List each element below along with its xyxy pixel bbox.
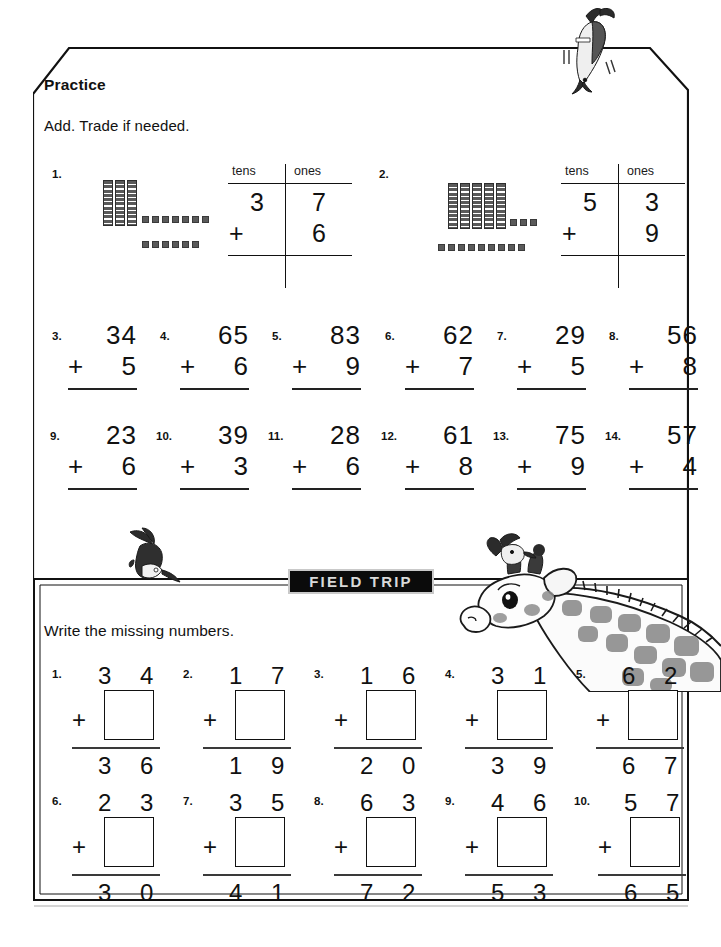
- field-trip-banner: FIELD TRIP: [288, 569, 434, 594]
- problem-number: 4.: [160, 330, 170, 342]
- problem-number: 13.: [493, 430, 509, 442]
- addend-top: 28: [330, 422, 361, 448]
- ones-column-header: ones: [627, 164, 654, 178]
- problem-number: 3.: [52, 330, 62, 342]
- answer-rule: [596, 747, 684, 749]
- addend-top: 61: [443, 422, 474, 448]
- answer-box[interactable]: [497, 817, 547, 867]
- missing-number-problem: 1 6 + 2 0: [334, 662, 429, 780]
- missing-number-problem: 3 1 + 3 9: [465, 662, 560, 780]
- answer-rule: [72, 874, 160, 876]
- addend-ones-digit: 9: [645, 219, 659, 248]
- plus-operator: +: [465, 833, 479, 861]
- problem-number: 1.: [52, 668, 62, 680]
- addend-top: 6 2: [622, 662, 688, 690]
- answer-rule: [334, 874, 422, 876]
- sum-value: 2 0: [360, 752, 426, 780]
- table-bottom-rule: [228, 255, 352, 256]
- answer-box[interactable]: [235, 690, 285, 740]
- ones-column-header: ones: [294, 164, 321, 178]
- problem-number: 3.: [314, 668, 324, 680]
- practice-instruction: Add. Trade if needed.: [44, 117, 190, 134]
- addend-top: 83: [330, 322, 361, 348]
- answer-box[interactable]: [366, 690, 416, 740]
- problem-number: 7.: [183, 795, 193, 807]
- addend-bottom: 9: [346, 353, 361, 379]
- addend-top: 2 3: [98, 789, 164, 817]
- missing-number-problem: 3 4 + 3 6: [72, 662, 167, 780]
- answer-rule: [203, 747, 291, 749]
- addend-top: 6 3: [360, 789, 426, 817]
- addend-bottom: 6: [122, 453, 137, 479]
- tens-digit: 3: [250, 188, 264, 217]
- sum-value: 5 3: [491, 879, 557, 907]
- problem-number: 9.: [50, 430, 60, 442]
- addend-top: 23: [106, 422, 137, 448]
- addend-top: 62: [443, 322, 474, 348]
- answer-rule: [203, 874, 291, 876]
- plus-operator: +: [405, 353, 420, 379]
- worksheet-page: Practice Add. Trade if needed. 1. tens o…: [0, 0, 721, 947]
- addend-bottom: 3: [234, 453, 249, 479]
- addend-bottom: 4: [683, 453, 698, 479]
- answer-rule: [292, 488, 361, 490]
- answer-box[interactable]: [497, 690, 547, 740]
- sum-value: 3 0: [98, 879, 164, 907]
- missing-number-problem: 5 7 + 6 5: [598, 789, 693, 907]
- addend-top: 39: [218, 422, 249, 448]
- place-value-table-2: tens ones 5 3 + 9: [561, 164, 685, 288]
- answer-box[interactable]: [630, 817, 680, 867]
- plus-operator: +: [334, 706, 348, 734]
- problem-number: 1.: [52, 168, 62, 180]
- tens-column-header: tens: [565, 164, 589, 178]
- problem-number: 10.: [156, 430, 172, 442]
- problem-number: 7.: [497, 330, 507, 342]
- addend-top: 1 6: [360, 662, 426, 690]
- answer-box[interactable]: [104, 690, 154, 740]
- plus-operator: +: [68, 453, 83, 479]
- plus-operator: +: [292, 453, 307, 479]
- ones-digit: 7: [312, 188, 326, 217]
- answer-rule: [629, 488, 698, 490]
- addend-top: 3 5: [229, 789, 295, 817]
- table-column-divider: [618, 164, 619, 288]
- problem-number: 2.: [183, 668, 193, 680]
- addend-bottom: 5: [122, 353, 137, 379]
- answer-box[interactable]: [104, 817, 154, 867]
- problem-number: 6.: [52, 795, 62, 807]
- addend-top: 3 1: [491, 662, 557, 690]
- answer-box[interactable]: [628, 690, 678, 740]
- addend-top: 3 4: [98, 662, 164, 690]
- plus-operator: +: [180, 353, 195, 379]
- ones-digit: 3: [645, 188, 659, 217]
- problem-number: 8.: [314, 795, 324, 807]
- addend-bottom: 9: [571, 453, 586, 479]
- problem-number: 14.: [605, 430, 621, 442]
- answer-box[interactable]: [366, 817, 416, 867]
- sum-value: 4 1: [229, 879, 295, 907]
- answer-rule: [465, 747, 553, 749]
- addend-bottom: 6: [234, 353, 249, 379]
- missing-numbers-instruction: Write the missing numbers.: [44, 622, 234, 640]
- answer-rule: [72, 747, 160, 749]
- addend-bottom: 6: [346, 453, 361, 479]
- missing-number-problem: 3 5 + 4 1: [203, 789, 298, 907]
- answer-box[interactable]: [235, 817, 285, 867]
- sum-value: 7 2: [360, 879, 426, 907]
- addend-bottom: 8: [459, 453, 474, 479]
- sum-value: 1 9: [229, 752, 295, 780]
- problem-number: 5.: [272, 330, 282, 342]
- plus-operator: +: [72, 833, 86, 861]
- answer-rule: [517, 488, 586, 490]
- plus-operator: +: [203, 706, 217, 734]
- table-bottom-rule: [561, 255, 685, 256]
- plus-operator: +: [517, 353, 532, 379]
- addend-bottom: 7: [459, 353, 474, 379]
- answer-rule: [68, 488, 137, 490]
- addend-top: 4 6: [491, 789, 557, 817]
- plus-operator: +: [203, 833, 217, 861]
- table-column-divider: [285, 164, 286, 288]
- tens-column-header: tens: [232, 164, 256, 178]
- bird-top-right-illustration: [548, 4, 638, 96]
- answer-rule: [465, 874, 553, 876]
